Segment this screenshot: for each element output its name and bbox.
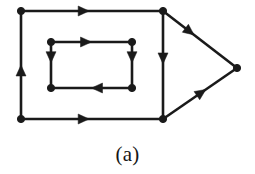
edge-layer [21,11,237,119]
edge-inner-right-arrowhead [127,52,137,63]
figure-container: (a) [0,0,255,174]
graph-node-outer-top-right [159,7,166,14]
graph-node-outer-bottom-right [159,115,166,122]
edge-inner-top-arrowhead [81,37,92,47]
edge-inner-left-arrowhead [46,52,56,63]
graph-node-inner-bottom-right [128,84,135,91]
graph-node-outer-top-left [17,7,24,14]
graph-node-outer-bottom-left [17,115,24,122]
figure-caption: (a) [0,141,255,167]
edge-outer-left-arrowhead [16,65,26,76]
graph-node-inner-top-right [128,38,135,45]
edge-outer-top-arrowhead [78,6,89,16]
graph-node-inner-bottom-left [47,84,54,91]
edge-outer-right-arrowhead [158,53,168,64]
edge-lower-diagonal-arrowhead [194,89,206,99]
edge-upper-diagonal [163,11,237,68]
graph-node-inner-top-left [47,38,54,45]
edge-outer-bottom-arrowhead [78,114,89,124]
graph-node-right-apex [233,64,240,71]
edge-inner-bottom-arrowhead [92,83,103,93]
